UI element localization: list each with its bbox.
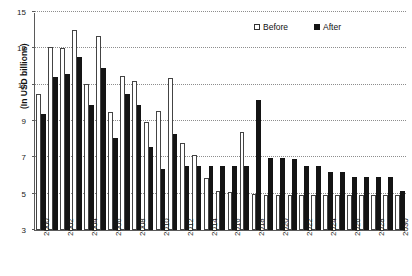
bar-group-2021 xyxy=(286,12,298,230)
bar-after-2018[interactable] xyxy=(256,100,261,230)
x-tick-label-2018: 2018 xyxy=(258,218,266,236)
chart-container: (In USD billions) 3579111315 20002002200… xyxy=(0,0,412,276)
y-tick-label-15: 15 xyxy=(2,9,26,17)
x-tick-label-2026: 2026 xyxy=(354,218,362,236)
bar-group-2023 xyxy=(310,12,322,230)
y-tick-label-3: 3 xyxy=(2,227,26,235)
bar-group-2013 xyxy=(191,12,203,230)
bar-after-2019[interactable] xyxy=(268,158,273,230)
bar-group-2007 xyxy=(119,12,131,230)
x-tick-label-2028: 2028 xyxy=(378,218,386,236)
legend-swatch-before-icon xyxy=(254,24,260,30)
bar-group-2030 xyxy=(394,12,406,230)
bar-after-2006[interactable] xyxy=(113,138,118,230)
bar-after-2003[interactable] xyxy=(77,57,82,230)
bar-after-2009[interactable] xyxy=(149,147,154,230)
bar-group-2026 xyxy=(346,12,358,230)
bar-group-2024 xyxy=(322,12,334,230)
bar-group-2029 xyxy=(382,12,394,230)
bar-group-2025 xyxy=(334,12,346,230)
bar-group-2019 xyxy=(262,12,274,230)
legend-item-before[interactable]: Before xyxy=(254,22,288,32)
bar-after-2007[interactable] xyxy=(125,94,130,230)
bar-group-2005 xyxy=(95,12,107,230)
bar-group-2017 xyxy=(238,12,250,230)
bar-after-2002[interactable] xyxy=(65,74,70,230)
plot-area: (In USD billions) xyxy=(34,13,405,231)
x-tick-label-2022: 2022 xyxy=(306,218,314,236)
x-tick-label-2024: 2024 xyxy=(330,218,338,236)
legend-label-after: After xyxy=(323,22,341,32)
bar-group-2022 xyxy=(298,12,310,230)
bar-group-2014 xyxy=(203,12,215,230)
bar-after-2000[interactable] xyxy=(41,114,46,230)
bar-after-2027[interactable] xyxy=(364,177,369,230)
x-tick-label-2010: 2010 xyxy=(163,218,171,236)
chart-legend: Before After xyxy=(254,22,341,32)
y-tick-label-5: 5 xyxy=(2,191,26,199)
bar-group-2016 xyxy=(226,12,238,230)
x-tick-label-2012: 2012 xyxy=(187,218,195,236)
bar-group-2008 xyxy=(131,12,143,230)
bar-group-2011 xyxy=(167,12,179,230)
bar-group-2001 xyxy=(47,12,59,230)
bar-after-2023[interactable] xyxy=(316,166,321,230)
bar-group-2012 xyxy=(179,12,191,230)
bar-group-2004 xyxy=(83,12,95,230)
bar-group-2009 xyxy=(143,12,155,230)
legend-label-before: Before xyxy=(263,22,288,32)
bar-after-2015[interactable] xyxy=(220,166,225,230)
bar-after-2021[interactable] xyxy=(292,159,297,230)
x-tick-label-2030: 2030 xyxy=(402,218,410,236)
x-tick-label-2004: 2004 xyxy=(91,218,99,236)
x-tick-label-2014: 2014 xyxy=(211,218,219,236)
bar-group-2000 xyxy=(35,12,47,230)
bar-after-2029[interactable] xyxy=(388,177,393,230)
bar-group-2020 xyxy=(274,12,286,230)
legend-swatch-after-icon xyxy=(314,24,320,30)
bar-group-2003 xyxy=(71,12,83,230)
y-tick-label-9: 9 xyxy=(2,118,26,126)
bar-after-2001[interactable] xyxy=(53,77,58,230)
x-tick-label-2006: 2006 xyxy=(115,218,123,236)
bar-group-2027 xyxy=(358,12,370,230)
y-tick-label-11: 11 xyxy=(2,82,26,90)
x-tick-label-2002: 2002 xyxy=(67,218,75,236)
x-tick-label-2016: 2016 xyxy=(234,218,242,236)
bar-after-2013[interactable] xyxy=(197,166,202,230)
bar-group-2018 xyxy=(250,12,262,230)
bar-group-2006 xyxy=(107,12,119,230)
x-tick-label-2000: 2000 xyxy=(43,218,51,236)
bar-group-2028 xyxy=(370,12,382,230)
bar-after-2005[interactable] xyxy=(101,68,106,230)
legend-item-after[interactable]: After xyxy=(314,22,341,32)
bar-group-2015 xyxy=(215,12,227,230)
bar-after-2011[interactable] xyxy=(173,134,178,230)
bar-after-2025[interactable] xyxy=(340,172,345,230)
bar-after-2008[interactable] xyxy=(137,105,142,230)
bar-after-2017[interactable] xyxy=(244,166,249,230)
x-tick-label-2020: 2020 xyxy=(282,218,290,236)
bar-group-2010 xyxy=(155,12,167,230)
y-tick-label-7: 7 xyxy=(2,154,26,162)
y-tick-label-13: 13 xyxy=(2,45,26,53)
bar-group-2002 xyxy=(59,12,71,230)
bar-after-2004[interactable] xyxy=(89,105,94,230)
x-tick-label-2008: 2008 xyxy=(139,218,147,236)
